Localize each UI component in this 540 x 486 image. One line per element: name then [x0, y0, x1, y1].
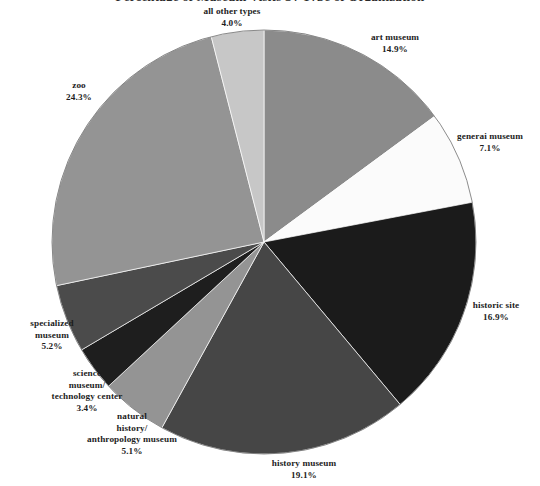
- slice-label-name-line1: specialized: [0, 318, 106, 330]
- slice-label-percent: 4.0%: [152, 18, 312, 30]
- slice-label-percent: 3.4%: [24, 403, 150, 415]
- slice-label-percent: 19.1%: [238, 470, 370, 482]
- slice-label-percent: 14.9%: [330, 44, 460, 56]
- slice-label-name: history museum: [238, 458, 370, 470]
- slice-label-history-museum: history museum 19.1%: [238, 458, 370, 481]
- slice-label-percent: 5.2%: [0, 341, 106, 353]
- slice-label-name: historic site: [452, 300, 540, 312]
- slice-label-name: all other types: [152, 6, 312, 18]
- slice-label-name: generai museum: [440, 131, 540, 143]
- slice-label-natural-history-museum: natural history/ anthropology museum 5.1…: [56, 411, 208, 457]
- pie-chart-figure: Percentage of Museum Visits by Type of O…: [0, 0, 540, 486]
- slice-label-art-museum: art museum 14.9%: [330, 32, 460, 55]
- slice-label-science-museum: science museum/ technology center 3.4%: [24, 368, 150, 414]
- slice-label-name-line2: museum: [0, 330, 106, 342]
- slice-label-percent: 7.1%: [440, 143, 540, 155]
- slice-label-name-line2: museum/: [24, 380, 150, 392]
- slice-label-general-museum: generai museum 7.1%: [440, 131, 540, 154]
- slice-label-zoo: zoo 24.3%: [28, 80, 130, 103]
- slice-label-historic-site: historic site 16.9%: [452, 300, 540, 323]
- slice-label-percent: 24.3%: [28, 92, 130, 104]
- slice-label-name-line2: history/: [56, 423, 208, 435]
- slice-label-name-line1: science: [24, 368, 150, 380]
- slice-label-name-line3: technology center: [24, 391, 150, 403]
- slice-label-specialized-museum: specialized museum 5.2%: [0, 318, 106, 353]
- slice-label-name: zoo: [28, 80, 130, 92]
- slice-label-percent: 5.1%: [56, 446, 208, 458]
- slice-label-name-line3: anthropology museum: [56, 434, 208, 446]
- slice-label-all-other-types: all other types 4.0%: [152, 6, 312, 29]
- slice-label-name: art museum: [330, 32, 460, 44]
- slice-label-percent: 16.9%: [452, 312, 540, 324]
